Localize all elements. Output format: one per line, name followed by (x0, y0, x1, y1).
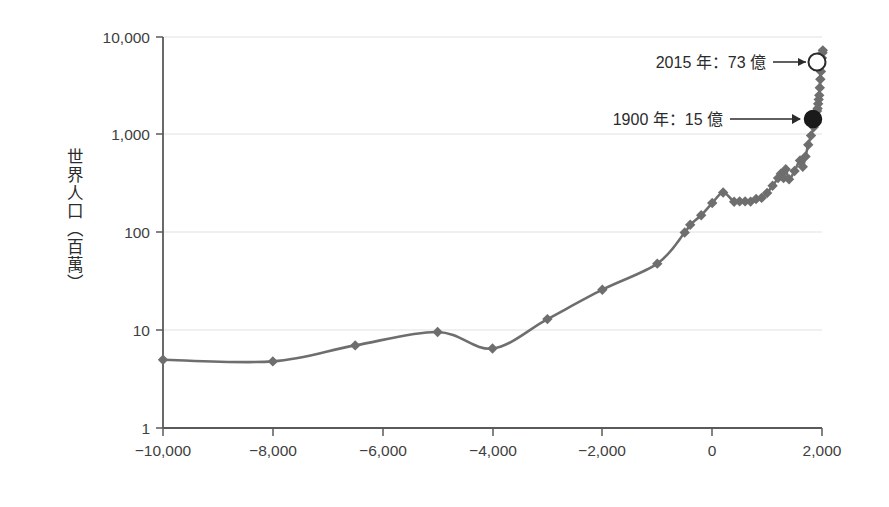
y-axis-ticks: 10,000 1,000 100 10 1 (103, 29, 163, 437)
data-series-world-population (158, 45, 828, 366)
y-tick-label-100: 100 (124, 224, 150, 241)
data-point-marker (487, 343, 497, 353)
y-tick-label-1000: 1,000 (111, 126, 150, 143)
data-point-marker (597, 284, 607, 294)
y-tick-label-10000: 10,000 (103, 29, 151, 46)
x-tick-label-m8000: −8,000 (249, 442, 297, 459)
y-tick-label-10: 10 (133, 322, 151, 339)
annotation-2015-arrow-head (798, 58, 806, 66)
data-point-marker (268, 356, 278, 366)
series-markers (158, 45, 828, 366)
series-line (163, 50, 823, 362)
x-tick-label-m6000: −6,000 (359, 442, 407, 459)
data-point-marker (815, 82, 825, 92)
gridlines (163, 37, 822, 330)
y-tick-label-1: 1 (141, 420, 150, 437)
annotation-2015-label: 2015 年：73 億 (656, 54, 766, 71)
x-tick-label-m10000: −10,000 (135, 442, 192, 459)
marker-2015-open-circle (809, 54, 826, 71)
data-point-marker (158, 354, 168, 364)
data-point-marker (542, 314, 552, 324)
x-tick-label-m4000: −4,000 (469, 442, 517, 459)
marker-1900-filled-circle (805, 111, 822, 128)
x-tick-label-m2000: −2,000 (578, 442, 626, 459)
data-point-marker (350, 340, 360, 350)
chart-canvas: 10,000 1,000 100 10 1 −10,000 −8,000 −6,… (0, 0, 889, 507)
annotation-2015-group: 2015 年：73 億 (656, 54, 826, 72)
data-point-marker (806, 130, 816, 140)
data-point-marker (803, 140, 813, 150)
annotation-1900-label: 1900 年：15 億 (613, 111, 723, 128)
data-point-marker (789, 166, 799, 176)
data-point-marker (432, 327, 442, 337)
x-axis-ticks: −10,000 −8,000 −6,000 −4,000 −2,000 0 2,… (135, 428, 842, 459)
population-chart: 世界人口（百萬） 10,000 1,000 100 10 1 (0, 0, 889, 507)
annotation-1900-group: 1900 年：15 億 (613, 111, 822, 129)
x-tick-label-0: 0 (708, 442, 717, 459)
annotation-1900-arrow-head (792, 114, 801, 124)
x-tick-label-2000: 2,000 (803, 442, 842, 459)
